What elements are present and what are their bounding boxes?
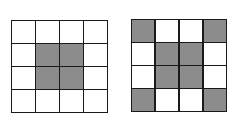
empty-cell xyxy=(60,90,83,112)
empty-cell xyxy=(12,67,35,89)
filled-cell xyxy=(36,44,59,66)
empty-cell xyxy=(180,89,202,111)
empty-cell xyxy=(156,20,178,42)
filled-cell xyxy=(36,67,59,89)
grid-left xyxy=(11,20,108,113)
empty-cell xyxy=(204,43,226,65)
empty-cell xyxy=(84,90,107,112)
filled-cell xyxy=(204,20,226,42)
empty-cell xyxy=(60,21,83,43)
empty-cell xyxy=(132,66,154,88)
empty-cell xyxy=(180,20,202,42)
empty-cell xyxy=(156,89,178,111)
empty-cell xyxy=(84,44,107,66)
filled-cell xyxy=(156,66,178,88)
filled-cell xyxy=(132,89,154,111)
grid-right xyxy=(131,19,227,112)
filled-cell xyxy=(132,20,154,42)
empty-cell xyxy=(84,21,107,43)
filled-cell xyxy=(180,66,202,88)
empty-cell xyxy=(12,21,35,43)
empty-cell xyxy=(132,43,154,65)
empty-cell xyxy=(84,67,107,89)
filled-cell xyxy=(60,44,83,66)
filled-cell xyxy=(180,43,202,65)
filled-cell xyxy=(60,67,83,89)
empty-cell xyxy=(12,90,35,112)
filled-cell xyxy=(156,43,178,65)
empty-cell xyxy=(204,66,226,88)
filled-cell xyxy=(204,89,226,111)
empty-cell xyxy=(36,21,59,43)
empty-cell xyxy=(12,44,35,66)
empty-cell xyxy=(36,90,59,112)
